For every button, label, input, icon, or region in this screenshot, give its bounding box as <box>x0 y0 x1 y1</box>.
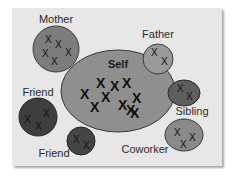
friend-2-label: Friend <box>38 147 69 159</box>
svg-text:X: X <box>177 83 184 94</box>
social-network-diagram: Self X X X X X X X X X X Mother X X X X … <box>0 0 235 179</box>
svg-text:X: X <box>180 139 187 150</box>
svg-text:X: X <box>65 47 72 58</box>
svg-text:X: X <box>55 39 62 50</box>
node-sibling: Sibling X X <box>168 80 209 117</box>
svg-text:X: X <box>80 86 90 102</box>
coworker-label: Coworker <box>121 143 168 155</box>
svg-text:X: X <box>90 99 100 115</box>
svg-text:X: X <box>189 132 196 143</box>
svg-text:X: X <box>45 34 52 45</box>
svg-text:X: X <box>151 47 158 58</box>
friend-1-label: Friend <box>22 86 53 98</box>
svg-text:X: X <box>122 75 132 91</box>
sibling-label: Sibling <box>175 105 208 117</box>
svg-text:X: X <box>43 108 50 119</box>
father-label: Father <box>142 28 174 40</box>
mother-label: Mother <box>39 13 74 25</box>
svg-text:X: X <box>174 127 181 138</box>
svg-text:X: X <box>35 121 42 132</box>
svg-text:X: X <box>42 48 49 59</box>
svg-text:X: X <box>161 56 168 67</box>
svg-text:X: X <box>51 56 58 67</box>
node-friend-1: Friend X X X <box>19 86 57 136</box>
svg-text:X: X <box>24 114 31 125</box>
svg-text:X: X <box>73 134 80 145</box>
svg-text:X: X <box>130 105 140 121</box>
node-father: Father X X <box>142 28 174 74</box>
self-label: Self <box>108 58 129 70</box>
svg-text:X: X <box>110 78 120 94</box>
svg-text:X: X <box>83 140 90 151</box>
svg-text:X: X <box>186 91 193 102</box>
node-mother: Mother X X X X X <box>33 13 79 72</box>
svg-text:X: X <box>101 89 111 105</box>
